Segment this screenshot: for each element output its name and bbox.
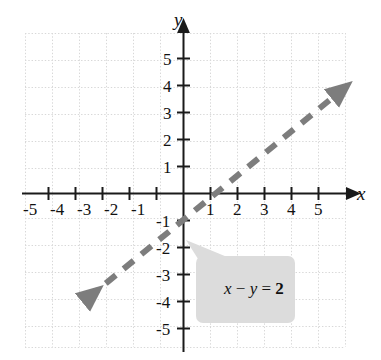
y-tick-label-3: 3	[163, 105, 172, 122]
x-tick-label-neg3: -3	[77, 201, 91, 218]
y-axis-label: y	[174, 10, 182, 29]
x-tick-label-1: 1	[206, 201, 215, 218]
y-tick-label-neg1: -1	[156, 213, 170, 230]
x-tick-label-4: 4	[287, 201, 296, 218]
grid-horizontal-lines	[25, 34, 345, 348]
equation-callout-box: x − y = 2	[196, 256, 295, 323]
x-tick-label-neg5: -5	[23, 201, 37, 218]
y-tick-label-4: 4	[163, 78, 172, 95]
x-axis-label: x	[357, 184, 365, 203]
x-tick-label-neg4: -4	[50, 201, 64, 218]
y-tick-label-neg4: -4	[156, 294, 170, 311]
x-tick-label-neg2: -2	[104, 201, 118, 218]
x-tick-label-5: 5	[314, 201, 323, 218]
graph-figure: y x -5 -4 -3 -2 -1 1 2 3 4 5 5 4 3 2 1 -…	[0, 0, 381, 360]
y-tick-label-5: 5	[163, 51, 172, 68]
equation-equals-sign: =	[257, 279, 275, 298]
x-tick-label-3: 3	[260, 201, 269, 218]
x-tick-label-neg1: -1	[131, 201, 145, 218]
equation-operator: −	[232, 279, 250, 298]
y-tick-label-1: 1	[163, 159, 172, 176]
x-tick-label-2: 2	[233, 201, 242, 218]
y-tick-label-neg2: -2	[156, 240, 170, 257]
grid-vertical-lines	[26, 33, 346, 347]
y-tick-label-neg5: -5	[156, 321, 170, 338]
equation-value: 2	[275, 279, 284, 298]
equation-left-variable: x	[224, 279, 232, 298]
y-tick-label-2: 2	[163, 132, 172, 149]
y-tick-label-neg3: -3	[156, 267, 170, 284]
coordinate-plane	[0, 0, 381, 360]
